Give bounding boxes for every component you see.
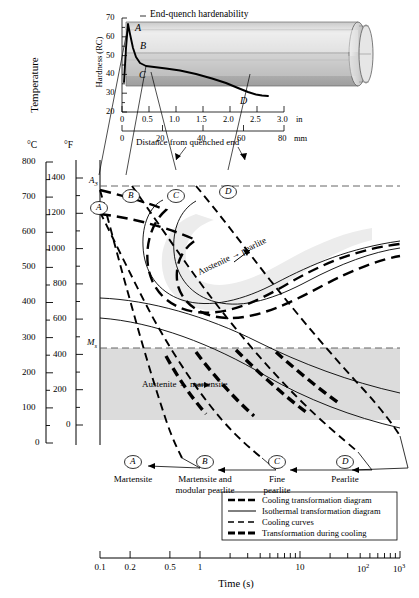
product-marker-C: C bbox=[274, 456, 280, 466]
time-tick-0.2: 0.2 bbox=[124, 562, 135, 572]
curve-marker-D: D bbox=[225, 186, 232, 196]
product-name-C-line1: Fine bbox=[269, 474, 285, 484]
inset-point-label-B: B bbox=[140, 40, 146, 51]
inset-x-tick-in-2.5: 2.5 bbox=[250, 114, 261, 124]
legend-label-cooling-transformation: Cooling transformation diagram bbox=[262, 495, 372, 505]
product-name-D: Pearlite bbox=[331, 474, 359, 484]
legend-label-transformation-during-cooling: Transformation during cooling bbox=[262, 528, 367, 538]
inset-x-tick-mm-60: 60 bbox=[237, 133, 246, 143]
inset-y-tick-60: 60 bbox=[106, 31, 115, 41]
curve-marker-C: C bbox=[173, 190, 179, 200]
fahrenheit-tick-600: 600 bbox=[53, 313, 67, 323]
time-tick-100: 102 bbox=[357, 562, 369, 574]
distance-label-arrowheads bbox=[175, 153, 247, 160]
fahrenheit-tick-1200: 1200 bbox=[47, 207, 65, 217]
inset-x-tick-in-2.0: 2.0 bbox=[223, 114, 234, 124]
celsius-tick-0: 0 bbox=[35, 437, 40, 447]
inset-unit-in: in bbox=[296, 114, 303, 124]
product-name-C-line2: pearlite bbox=[264, 485, 291, 495]
ms-label-sub: s bbox=[95, 342, 98, 349]
cct-diagram-figure: End-quench hardenability Hardness (RC) D… bbox=[0, 0, 419, 598]
inset-x-tick-in-0: 0 bbox=[120, 114, 124, 124]
inset-x-tick-mm-0: 0 bbox=[120, 133, 124, 143]
celsius-ticks bbox=[46, 162, 53, 443]
curve-marker-A: A bbox=[96, 202, 102, 212]
time-tick-1000-exp: 3 bbox=[402, 562, 405, 569]
time-tick-100-exp: 2 bbox=[366, 562, 369, 569]
inset-unit-mm: mm bbox=[294, 133, 307, 143]
inset-y-tick-70: 70 bbox=[106, 12, 115, 22]
celsius-tick-400: 400 bbox=[22, 296, 36, 306]
inset-y-tick-20: 20 bbox=[106, 106, 115, 116]
time-ticks bbox=[100, 551, 400, 558]
fahrenheit-tick-1000: 1000 bbox=[47, 243, 65, 253]
inset-y-tick-50: 50 bbox=[106, 50, 115, 60]
time-axis-label: Time (s) bbox=[218, 578, 254, 589]
time-tick-100-base: 10 bbox=[357, 564, 366, 574]
temperature-axis-label: Temperature bbox=[28, 57, 40, 112]
product-marker-B: B bbox=[202, 456, 208, 466]
time-tick-1: 1 bbox=[198, 562, 203, 572]
fahrenheit-tick-800: 800 bbox=[53, 278, 67, 288]
time-tick-1000-base: 10 bbox=[393, 564, 402, 574]
inset-x-tick-in-0.5: 0.5 bbox=[142, 114, 153, 124]
product-arrowheads bbox=[148, 463, 359, 473]
legend-label-cooling-curves: Cooling curves bbox=[262, 517, 314, 527]
time-tick-0.5: 0.5 bbox=[164, 562, 175, 572]
celsius-unit-label: °C bbox=[27, 140, 37, 150]
celsius-tick-500: 500 bbox=[22, 261, 36, 271]
curve-marker-B: B bbox=[128, 190, 134, 200]
inset-y-tick-40: 40 bbox=[106, 68, 115, 78]
celsius-tick-100: 100 bbox=[22, 402, 36, 412]
inset-xlabel: Distance from quenched end bbox=[136, 137, 239, 147]
time-tick-0.1: 0.1 bbox=[94, 562, 105, 572]
legend-label-isothermal-transformation: Isothermal transformation diagram bbox=[262, 506, 381, 516]
inset-title: End-quench hardenability bbox=[150, 9, 248, 19]
a3-line-label: A3 bbox=[89, 175, 98, 187]
fahrenheit-ticks bbox=[76, 178, 83, 425]
inset-point-label-A: A bbox=[135, 22, 141, 33]
product-name-B-line2: modular pearlite bbox=[175, 485, 234, 495]
fahrenheit-tick-0: 0 bbox=[66, 419, 71, 429]
austenite-martensite-label: Austenite → martensite bbox=[142, 379, 227, 389]
ms-label-text: M bbox=[87, 337, 95, 347]
distance-label-leaders bbox=[176, 147, 245, 160]
inset-x-tick-in-3.0: 3.0 bbox=[277, 114, 288, 124]
product-name-A: Martensite bbox=[114, 474, 153, 484]
inset-ylabel: Hardness (RC) bbox=[94, 37, 104, 88]
celsius-tick-600: 600 bbox=[22, 226, 36, 236]
celsius-tick-800: 800 bbox=[22, 156, 36, 166]
fahrenheit-tick-200: 200 bbox=[53, 384, 67, 394]
celsius-tick-700: 700 bbox=[22, 191, 36, 201]
inset-hardenability-chart bbox=[122, 18, 358, 131]
celsius-tick-200: 200 bbox=[22, 367, 36, 377]
fahrenheit-unit-label: °F bbox=[64, 140, 73, 150]
inset-x-tick-mm-80: 80 bbox=[278, 133, 287, 143]
inset-x-tick-in-1.5: 1.5 bbox=[196, 114, 207, 124]
ms-line-label: Ms bbox=[87, 337, 97, 349]
a3-label-sub: 3 bbox=[95, 180, 98, 187]
celsius-tick-300: 300 bbox=[22, 332, 36, 342]
inset-x-tick-in-1.0: 1.0 bbox=[169, 114, 180, 124]
fahrenheit-tick-400: 400 bbox=[53, 349, 67, 359]
time-tick-10: 10 bbox=[296, 562, 305, 572]
inset-x-tick-mm-20: 20 bbox=[156, 133, 165, 143]
time-tick-1000: 103 bbox=[393, 562, 405, 574]
inset-point-label-D: D bbox=[240, 95, 247, 106]
product-name-B-line1: Martensite and bbox=[178, 474, 232, 484]
inset-y-tick-30: 30 bbox=[106, 87, 115, 97]
inset-x-tick-mm-40: 40 bbox=[197, 133, 206, 143]
inset-point-label-C: C bbox=[139, 69, 146, 80]
product-marker-A: A bbox=[130, 456, 136, 466]
fahrenheit-tick-1400: 1400 bbox=[47, 172, 65, 182]
product-marker-D: D bbox=[342, 456, 349, 466]
